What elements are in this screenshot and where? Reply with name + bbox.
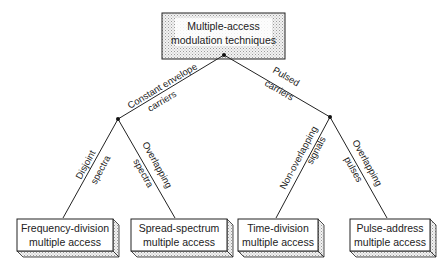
svg-text:multiple access: multiple access [242,236,314,248]
junction-right [328,115,332,119]
label-overlapping-spectra: Overlapping spectra [131,140,174,190]
svg-text:multiple access: multiple access [29,236,101,248]
root-title-line1: Multiple-access [187,20,259,32]
leaf-pama: Pulse-address multiple access [350,219,436,257]
leaf-ssma: Spread-spectrum multiple access [131,219,233,257]
svg-text:Time-division: Time-division [247,222,309,234]
svg-text:Pulse-address: Pulse-address [356,222,423,234]
leaf-fdma: Frequency-division multiple access [17,219,119,257]
svg-text:multiple access: multiple access [143,236,215,248]
svg-text:multiple access: multiple access [354,236,426,248]
leaf-tdma: Time-division multiple access [238,219,324,257]
label-overlapping-pulses: Overlapping pulses [342,138,384,188]
label-constant-envelope: Constant envelope carriers [125,60,199,113]
root-title-line2: modulation techniques [171,34,276,46]
svg-text:Spread-spectrum: Spread-spectrum [139,222,220,234]
svg-text:Frequency-division: Frequency-division [21,222,109,234]
edge-constant-envelope [118,55,224,119]
root-node: Multiple-access modulation techniques [162,13,285,59]
junction-root [222,53,226,57]
edge-disjoint [63,119,118,218]
edges [63,55,387,218]
junction-left [116,117,120,121]
label-disjoint-spectra: Disjoint spectra [73,148,113,186]
edge-non-overlapping [276,117,330,218]
taxonomy-diagram: Multiple-access modulation techniques Co… [0,0,443,266]
label-non-overlapping-signals: Non-overlapping signals [277,124,328,191]
